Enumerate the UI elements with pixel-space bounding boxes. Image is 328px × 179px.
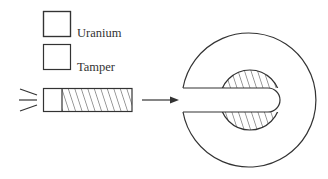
legend-tamper-label: Tamper (77, 60, 116, 74)
legend-uranium-label: Uranium (77, 26, 122, 40)
gun-type-diagram: Uranium Tamper (0, 0, 328, 179)
legend-tamper: Tamper (44, 45, 116, 75)
projectile-tamper-plug (44, 89, 63, 112)
motion-lines-icon (19, 89, 37, 111)
tamper-swatch (44, 45, 71, 70)
projectile (44, 89, 133, 112)
target-assembly (183, 33, 316, 167)
slot (183, 88, 280, 112)
arrow-right-icon (142, 97, 179, 104)
legend-uranium: Uranium (44, 12, 122, 41)
uranium-swatch (44, 12, 71, 37)
